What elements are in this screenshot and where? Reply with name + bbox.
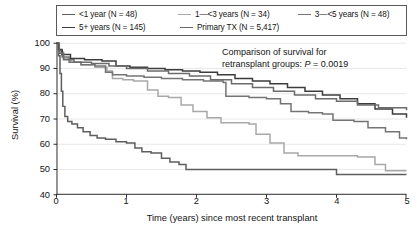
annotation-line-2: retransplant groups: P = 0.0019 [222, 59, 402, 71]
x-tick-label: 1 [117, 196, 135, 206]
y-tick-label: 80 [26, 89, 50, 98]
x-axis-tick-labels: 012345 [0, 196, 417, 210]
legend-item-primary-tx: Primary TX (N = 5,417) [180, 21, 302, 34]
p-value: = 0.0019 [311, 59, 349, 69]
legend-item-3to5years: 3—<5 years (N = 48) [298, 8, 402, 21]
x-tick-label: 0 [47, 196, 65, 206]
legend-item-1to3years: 1—<3 years (N = 34) [178, 8, 298, 21]
legend-row-2: 5+ years (N = 145) Primary TX (N = 5,417… [62, 21, 402, 34]
y-tick-label: 70 [26, 115, 50, 124]
x-tick-label: 4 [328, 196, 346, 206]
legend-label: 3—<5 years (N = 48) [315, 10, 390, 20]
p-value-annotation: Comparison of survival for retransplant … [222, 47, 402, 70]
annotation-line-1: Comparison of survival for [222, 47, 402, 59]
annotation-prefix: retransplant groups: [222, 59, 305, 69]
survival-chart-figure: <1 year (N = 48) 1—<3 years (N = 34) 3—<… [0, 0, 417, 231]
legend-row-1: <1 year (N = 48) 1—<3 years (N = 34) 3—<… [62, 8, 402, 21]
y-tick-label: 90 [26, 64, 50, 73]
legend-swatch-line-icon [62, 14, 75, 15]
y-tick-label: 50 [26, 165, 50, 174]
y-tick-label: 100 [26, 39, 50, 48]
legend-label: 1—<3 years (N = 34) [195, 10, 270, 20]
legend-swatch-line-icon [298, 14, 311, 15]
legend-swatch-line-icon [180, 27, 193, 28]
legend-label: Primary TX (N = 5,417) [197, 23, 279, 33]
x-tick-label: 3 [258, 196, 276, 206]
x-tick-label: 5 [398, 196, 416, 206]
x-axis-title: Time (years) since most recent transplan… [56, 213, 408, 223]
legend-item-lt1year: <1 year (N = 48) [62, 8, 178, 21]
y-axis-title: Survival (%) [10, 69, 20, 161]
legend-label: 5+ years (N = 145) [79, 23, 145, 33]
chart-legend: <1 year (N = 48) 1—<3 years (N = 34) 3—<… [56, 5, 407, 36]
legend-swatch-line-icon [178, 14, 191, 15]
legend-label: <1 year (N = 48) [79, 10, 137, 20]
legend-swatch-line-icon [62, 27, 75, 28]
x-tick-label: 2 [187, 196, 205, 206]
y-tick-label: 60 [26, 140, 50, 149]
legend-item-5plusyears: 5+ years (N = 145) [62, 21, 180, 34]
